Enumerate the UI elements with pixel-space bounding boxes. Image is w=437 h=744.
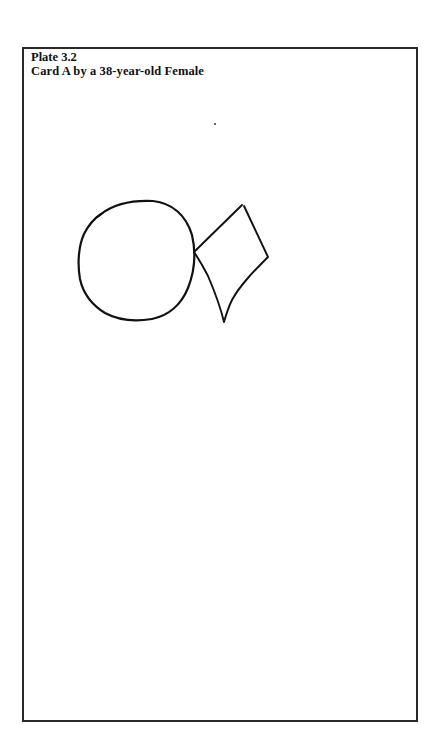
card-a-drawing: [0, 0, 437, 744]
diamond-shape: [194, 205, 268, 322]
circle-shape: [79, 201, 195, 320]
ink-speck: [214, 123, 216, 125]
